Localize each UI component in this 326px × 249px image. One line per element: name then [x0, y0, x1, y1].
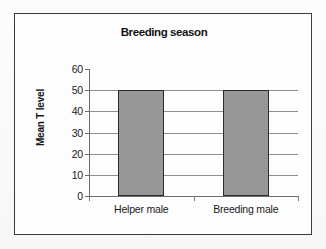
y-axis-tick-mark	[85, 154, 89, 155]
x-axis-category-label: Breeding male	[213, 203, 278, 215]
plot-area: 6050403020100 Helper maleBreeding male	[89, 69, 298, 196]
y-axis-tick-mark	[85, 175, 89, 176]
y-axis-tick-mark	[85, 69, 89, 70]
x-axis-tick-mark	[298, 196, 299, 201]
chart-frame: Breeding season Mean T level 60504030201…	[14, 13, 312, 235]
chart-title: Breeding season	[15, 26, 313, 38]
y-axis-tick-label: 20	[72, 148, 83, 160]
y-axis-title: Mean T level	[35, 76, 46, 160]
x-axis-tick-mark	[194, 196, 195, 201]
x-axis-category-label: Helper male	[114, 203, 168, 215]
y-axis-tick-label: 40	[72, 105, 83, 117]
y-axis-tick-mark	[85, 90, 89, 91]
y-axis-line	[89, 69, 90, 196]
y-axis-tick-mark	[85, 111, 89, 112]
y-axis-tick-label: 60	[72, 63, 83, 75]
bar	[118, 90, 164, 196]
y-axis-tick-label: 50	[72, 84, 83, 96]
y-axis-tick-mark	[85, 133, 89, 134]
bar	[223, 90, 269, 196]
x-axis-tick-mark	[89, 196, 90, 201]
y-axis-tick-label: 0	[77, 190, 83, 202]
y-axis-tick-label: 10	[72, 169, 83, 181]
y-axis-tick-label: 30	[72, 127, 83, 139]
